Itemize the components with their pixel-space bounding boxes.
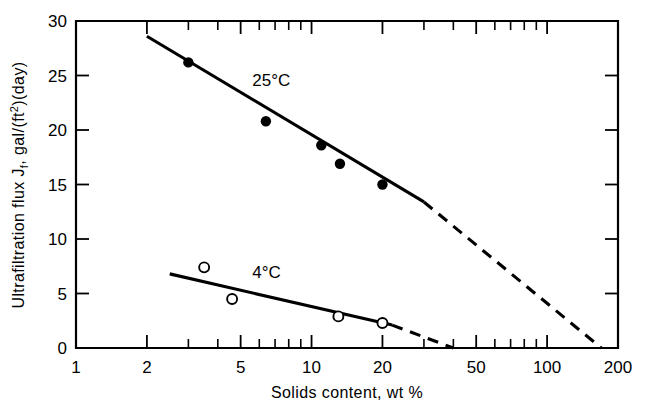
y-tick-label: 20 <box>48 121 67 140</box>
y-axis-tick-labels: 051015202530 <box>48 12 67 358</box>
x-tick-label: 50 <box>467 358 486 377</box>
data-point <box>261 116 271 126</box>
x-axis-title: Solids content, wt % <box>271 384 423 401</box>
series-fit-lines <box>147 36 601 348</box>
x-tick-label: 200 <box>604 358 632 377</box>
fit-line-solid <box>170 274 392 325</box>
y-tick-label: 15 <box>48 176 67 195</box>
data-point <box>316 140 326 150</box>
data-point <box>199 262 209 272</box>
data-point <box>377 318 387 328</box>
y-tick-label: 10 <box>48 230 67 249</box>
x-tick-label: 10 <box>302 358 321 377</box>
y-tick-label: 0 <box>58 339 67 358</box>
y-axis-title: Ultrafiltration flux Jf, gal/(ft2)(day) <box>8 61 30 308</box>
fit-line-dashed <box>424 202 601 348</box>
ultrafiltration-flux-chart: 125102050100200 051015202530 25°C4°C Sol… <box>0 0 646 417</box>
series-data-points <box>183 57 387 328</box>
data-point <box>183 57 193 67</box>
x-tick-label: 100 <box>533 358 561 377</box>
x-tick-label: 5 <box>236 358 245 377</box>
data-point <box>227 294 237 304</box>
chart-figure: 125102050100200 051015202530 25°C4°C Sol… <box>0 0 646 417</box>
data-point <box>333 311 343 321</box>
series-annotation: 25°C <box>252 71 290 90</box>
y-tick-label: 25 <box>48 67 67 86</box>
x-tick-label: 2 <box>142 358 151 377</box>
x-axis-ticks <box>147 21 547 348</box>
plot-frame <box>76 21 618 348</box>
x-axis-tick-labels: 125102050100200 <box>71 358 632 377</box>
data-point <box>377 179 387 189</box>
series-annotation: 4°C <box>252 263 281 282</box>
x-tick-label: 1 <box>71 358 80 377</box>
y-axis-ticks <box>76 76 618 294</box>
y-tick-label: 30 <box>48 12 67 31</box>
fit-line-dashed <box>392 325 453 348</box>
y-tick-label: 5 <box>58 285 67 304</box>
data-point <box>335 159 345 169</box>
x-tick-label: 20 <box>373 358 392 377</box>
